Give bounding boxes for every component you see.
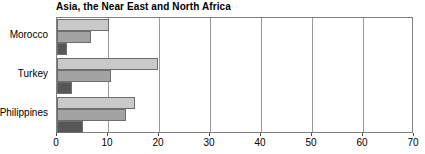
bar [57, 43, 67, 55]
bar [57, 121, 83, 133]
axis-tick [413, 133, 414, 136]
category-axis: MoroccoTurkeyPhilippines [0, 17, 52, 133]
category-label: Turkey [18, 68, 48, 79]
axis-tick-label: 40 [254, 137, 265, 148]
axis-tick [260, 133, 261, 136]
axis-tick-label: 10 [101, 137, 112, 148]
axis-tick [158, 133, 159, 136]
axis-tick [362, 133, 363, 136]
bar [57, 31, 91, 43]
axis-tick [209, 133, 210, 136]
bar-chart: Asia, the Near East and North Africa Mor… [0, 0, 425, 154]
axis-tick [107, 133, 108, 136]
bar [57, 70, 111, 82]
axis-tick-label: 50 [305, 137, 316, 148]
axis-tick-label: 0 [53, 137, 59, 148]
value-axis: 010203040506070 [56, 133, 413, 153]
bar [57, 109, 126, 121]
bar-group [57, 58, 412, 94]
axis-tick-label: 70 [407, 137, 418, 148]
axis-tick-label: 30 [203, 137, 214, 148]
plot-area [56, 17, 413, 133]
axis-tick [56, 133, 57, 136]
axis-tick-label: 60 [356, 137, 367, 148]
bar [57, 19, 109, 31]
bar [57, 58, 158, 70]
bar-group [57, 97, 412, 133]
axis-tick-label: 20 [152, 137, 163, 148]
bar [57, 82, 72, 94]
bars-layer [57, 18, 412, 132]
category-label: Philippines [0, 107, 48, 118]
category-label: Morocco [10, 29, 48, 40]
chart-title: Asia, the Near East and North Africa [56, 1, 231, 12]
axis-tick [311, 133, 312, 136]
bar-group [57, 19, 412, 55]
bar [57, 97, 135, 109]
